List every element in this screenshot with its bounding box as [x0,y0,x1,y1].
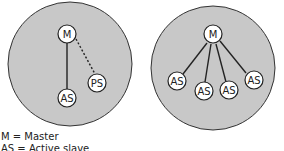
node-master: M [204,25,222,43]
legend-master: M = Master [1,131,59,142]
node-active-slave-3: AS [220,81,238,99]
node-active-slave-1: AS [168,72,186,90]
right-network-diagram: M AS AS AS AS [151,6,275,130]
diagram-canvas: M AS PS M AS AS AS [0,0,284,151]
node-label: M [63,29,72,40]
legend-active-slave: AS = Active slave [1,143,89,151]
node-active-slave-4: AS [245,71,263,89]
left-domain-circle [8,2,132,126]
left-network-diagram: M AS PS [8,2,132,126]
node-label: AS [60,93,73,104]
node-active-slave-2: AS [195,82,213,100]
node-label: AS [170,76,183,87]
node-label: AS [197,86,210,97]
node-label: AS [222,85,235,96]
node-master: M [58,25,76,43]
node-label: AS [247,75,260,86]
node-label: PS [91,78,103,89]
node-label: M [209,29,218,40]
node-active-slave: AS [58,89,76,107]
node-passive-slave: PS [88,74,106,92]
